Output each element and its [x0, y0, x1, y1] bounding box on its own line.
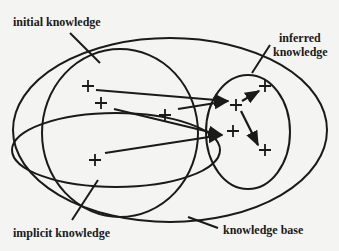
knowledge-base-ellipse [13, 38, 327, 222]
label-inferred-knowledge-line1: inferred [279, 31, 321, 45]
label-inferred-knowledge-line2: knowledge [273, 45, 328, 59]
label-implicit-knowledge: implicit knowledge [13, 226, 111, 240]
inference-arrows [96, 90, 259, 153]
label-initial-knowledge: initial knowledge [13, 15, 101, 29]
inferred-knowledge-leader [252, 45, 270, 73]
inferred-knowledge-ellipse [206, 75, 290, 189]
knowledge-diagram: initial knowledge inferred knowledge imp… [0, 0, 339, 251]
label-knowledge-base: knowledge base [223, 223, 304, 237]
initial-knowledge-ellipse [42, 49, 198, 217]
